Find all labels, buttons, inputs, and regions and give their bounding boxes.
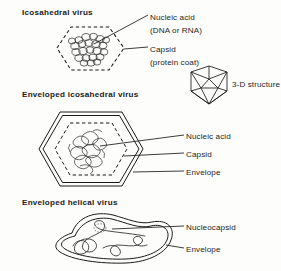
label-capsid-line2: (protein coat): [150, 58, 199, 67]
leader-line-capsid-2: [124, 153, 184, 156]
capsomere-cluster: [68, 33, 109, 66]
leader-line-nucleic-acid-2: [100, 135, 184, 146]
envelope-hexagon-inner: [43, 116, 139, 183]
virus-structure-figure: Icosahedral virus Nucleic acid (DNA or R…: [0, 0, 281, 271]
label-envelope-2: Envelope: [186, 168, 221, 177]
leader-line-envelope-2: [133, 171, 184, 172]
heading-icosahedral-virus: Icosahedral virus: [22, 8, 93, 17]
label-envelope-3: Envelope: [186, 245, 221, 254]
label-nucleic-acid-line2: (DNA or RNA): [150, 26, 202, 35]
leader-line-nucleic-acid-1: [94, 15, 148, 44]
leader-line-envelope-3: [166, 245, 184, 248]
label-nucleocapsid: Nucleocapsid: [186, 223, 236, 232]
diagram-drawing-layer: [0, 0, 281, 271]
label-nucleic-acid-line1: Nucleic acid: [150, 13, 195, 22]
icosahedron-edges: [191, 66, 227, 104]
envelope-blob-inner: [61, 218, 168, 259]
icosahedral-virus-drawing: [57, 15, 148, 70]
heading-enveloped-helical-virus: Enveloped helical virus: [22, 198, 118, 207]
label-capsid-2: Capsid: [186, 150, 212, 159]
label-3d-structure: 3-D structure: [232, 80, 280, 89]
heading-enveloped-icosahedral-virus: Enveloped icosahedral virus: [22, 90, 139, 99]
icosahedron-3d-drawing: [191, 66, 227, 104]
label-nucleic-acid-2: Nucleic acid: [186, 132, 231, 141]
enveloped-helical-virus-drawing: [56, 214, 184, 263]
nucleic-acid-tangle: [69, 130, 107, 174]
leader-line-capsid-1: [124, 47, 148, 49]
enveloped-icosahedral-virus-drawing: [39, 112, 184, 186]
label-capsid-line1: Capsid: [150, 45, 176, 54]
